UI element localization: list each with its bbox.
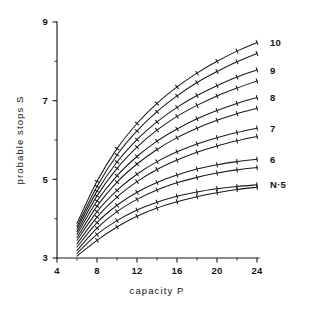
data-point-marker [115,147,119,150]
data-point-marker [237,167,238,172]
data-point-marker [155,139,158,143]
series-end-labels: 109876N·5 [270,37,287,190]
x-tick-label: 16 [172,265,183,276]
series-label-6-upper: 6 [270,154,276,165]
data-point-marker [176,194,177,199]
y-axis-ticks [53,22,58,258]
data-point-marker [237,159,238,164]
x-tick-label: 20 [212,265,223,276]
data-point-marker [216,162,217,167]
data-point-marker [216,171,217,176]
curve-5-upper [77,185,257,253]
data-point-marker [196,175,197,180]
chart-figure: 3579 4812162024 109876N·5 capacity P pro… [0,0,318,317]
data-point-marker [216,135,218,140]
x-tick-label: 12 [132,265,143,276]
series-label-9-upper: 9 [270,65,276,76]
series-label-8-upper: 8 [270,92,276,103]
data-point-marker [236,130,237,135]
line-chart-canvas: 3579 4812162024 109876N·5 capacity P pro… [0,0,318,317]
data-point-marker [256,134,257,139]
data-point-marker [175,105,178,109]
data-curves [77,42,257,256]
data-point-marker [115,154,119,157]
x-tick-label: 8 [94,265,99,276]
curve-7-upper [77,128,257,240]
data-point-marker [196,167,197,172]
data-point-marker [256,126,257,131]
data-point-marker [196,189,197,194]
x-axis-tick-labels: 4812162024 [54,265,263,276]
x-tick-label: 24 [252,265,263,276]
y-axis-title: probable stops S [14,96,25,185]
data-point-marker [257,165,258,170]
data-point-marker [116,218,119,222]
data-point-marker [257,185,258,190]
data-point-marker [176,114,179,118]
data-point-marker [196,71,199,75]
data-point-marker [196,194,197,199]
data-point-marker [256,106,257,111]
x-axis-title: capacity P [130,285,185,296]
series-label-10-upper: 10 [270,37,281,48]
series-label-5-upper: N·5 [270,179,287,190]
data-point-marker [95,205,99,208]
y-axis-tick-labels: 3579 [43,16,49,263]
curve-8-lower [77,108,257,237]
data-point-marker [155,147,158,151]
y-tick-label: 5 [43,174,49,185]
data-point-marker [115,161,119,164]
series-label-7-upper: 7 [270,123,276,134]
data-point-marker [176,199,178,204]
data-point-marker [257,157,258,162]
data-point-marker [216,143,218,148]
data-point-marker [135,180,138,184]
data-point-marker [256,95,257,100]
x-tick-label: 4 [54,265,60,276]
data-point-marker [236,138,237,143]
y-tick-label: 9 [43,16,48,27]
x-axis-ticks [57,258,257,263]
curve-8-upper [77,98,257,235]
y-tick-label: 3 [43,252,48,263]
y-tick-label: 7 [43,95,48,106]
